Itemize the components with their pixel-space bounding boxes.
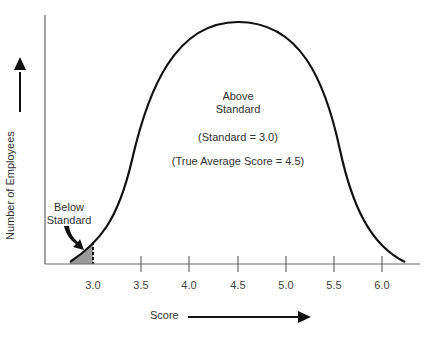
x-tick-label: 6.0 bbox=[374, 279, 389, 291]
above-standard-label-line1: Above bbox=[222, 90, 253, 102]
below-standard-arrow-icon bbox=[64, 226, 84, 250]
x-tick-label: 5.5 bbox=[326, 279, 341, 291]
above-standard-label-line2: Standard bbox=[216, 103, 261, 115]
bell-curve-diagram bbox=[0, 0, 430, 339]
below-standard-label-line1: Below bbox=[54, 201, 84, 213]
standard-note: (Standard = 3.0) bbox=[198, 131, 278, 143]
y-axis-direction-arrow-icon bbox=[14, 57, 26, 70]
x-tick-label: 3.0 bbox=[85, 279, 100, 291]
x-tick-label: 4.0 bbox=[181, 279, 196, 291]
x-axis-label: Score bbox=[150, 309, 179, 321]
x-axis-direction-arrow-icon bbox=[298, 311, 311, 323]
x-tick-label: 3.5 bbox=[133, 279, 148, 291]
average-score-note: (True Average Score = 4.5) bbox=[172, 155, 304, 167]
x-tick-label: 4.5 bbox=[230, 279, 245, 291]
below-standard-label-line2: Standard bbox=[47, 214, 92, 226]
y-axis-label: Number of Employees bbox=[4, 131, 16, 240]
x-tick-label: 5.0 bbox=[278, 279, 293, 291]
